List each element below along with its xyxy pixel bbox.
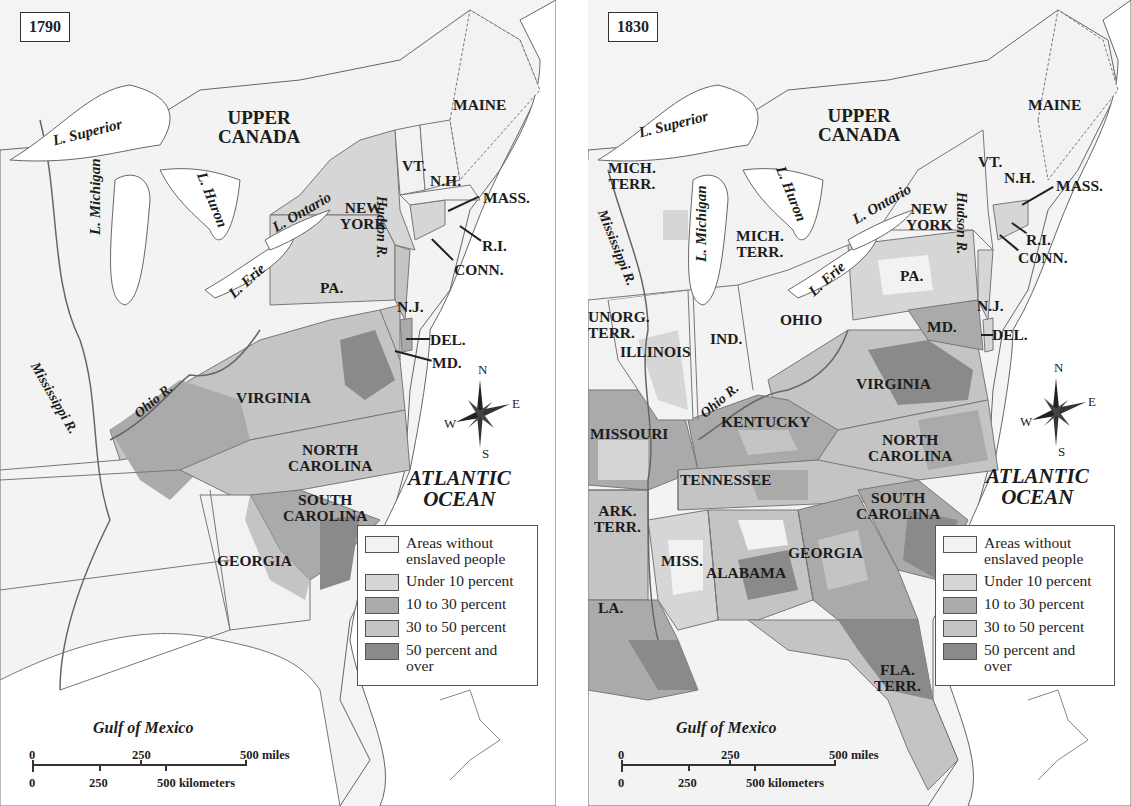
region-delaware [400,318,412,352]
legend-label: 30 to 50 percent [406,619,506,635]
label-south-carolina: SOUTH CAROLINA [856,490,940,521]
label-fla-terr: FLA. TERR. [874,662,921,693]
label-text: FLA. [874,662,921,678]
label-illinois: ILLINOIS [620,344,691,360]
label-new-york: NEW YORK [906,201,953,232]
legend-swatch [943,536,977,553]
label-lake-michigan: L. Michigan [88,158,103,235]
label-text: MICH. [736,228,784,244]
label-lake-michigan: L. Michigan [694,185,709,262]
scale-tick [245,760,247,766]
legend-label-line: enslaved people [984,550,1083,567]
label-text: OCEAN [408,489,511,510]
legend-swatch [943,643,977,660]
legend: Areas withoutenslaved people Under 10 pe… [357,525,538,686]
legend-item-under-10: Under 10 percent [365,573,529,591]
label-del: DEL. [430,332,466,348]
label-text: CAROLINA [288,458,372,474]
scale-tick [754,765,756,771]
label-mass: MASS. [483,190,530,206]
scale-miles-500: 500 miles [240,748,290,763]
label-gulf-of-mexico: Gulf of Mexico [676,720,776,736]
map-1790: 1790 UPPER CANADA MAINE VT. N.H. MASS. R… [0,0,556,806]
scale-tick [32,760,34,772]
label-mich-terr-west: MICH. TERR. [608,160,656,191]
label-text: NORTH [868,432,952,448]
leader-del [406,338,430,340]
legend-label-line: Areas without [984,534,1071,551]
scale-tick [729,760,731,766]
label-text: UPPER [818,106,900,125]
legend-label-line: enslaved people [406,550,505,567]
legend-swatch [365,597,399,614]
scale-km-0: 0 [29,776,35,791]
compass-e: E [512,396,520,412]
label-south-carolina: SOUTH CAROLINA [283,492,367,523]
label-ohio: OHIO [780,312,822,328]
label-md: MD. [927,319,957,335]
label-text: CAROLINA [856,506,940,522]
label-text: TERR. [608,176,656,192]
scale-bar: 0 250 500 miles 0 250 500 kilometers [32,748,292,793]
legend-item-under-10: Under 10 percent [943,573,1106,591]
label-virginia: VIRGINIA [856,376,931,392]
scale-bar: 0 250 500 miles 0 250 500 kilometers [621,748,881,793]
legend-label: 50 percent andover [406,642,497,675]
label-text: CAROLINA [283,508,367,524]
label-text: UNORG. [588,309,650,325]
legend-label-line: Areas without [406,534,493,551]
legend-swatch [365,574,399,591]
label-del: DEL. [992,327,1028,343]
scale-km-250: 250 [678,776,697,791]
legend-item-50-plus: 50 percent andover [365,642,529,675]
year-label: 1830 [608,12,658,42]
legend-label-line: 50 percent and [984,641,1075,658]
legend-item-none: Areas withoutenslaved people [943,535,1106,568]
legend-item-30-to-50: 30 to 50 percent [365,619,529,637]
label-text: TERR. [874,678,921,694]
label-md: MD. [432,355,462,371]
label-text: CANADA [818,125,900,144]
label-nj: N.J. [977,298,1004,314]
label-tennessee: TENNESSEE [680,472,771,488]
label-north-carolina: NORTH CAROLINA [868,432,952,463]
region-missouri-low [598,440,648,480]
label-text: TERR. [594,519,641,535]
label-maine: MAINE [1028,97,1081,113]
scale-km-0: 0 [618,776,624,791]
label-nj: N.J. [397,299,424,315]
legend-item-10-to-30: 10 to 30 percent [365,596,529,614]
legend-item-none: Areas withoutenslaved people [365,535,529,568]
label-ri: R.I. [1026,232,1051,248]
legend-label: Under 10 percent [984,573,1092,589]
label-text: CAROLINA [868,448,952,464]
legend-swatch [365,536,399,553]
legend-label: 30 to 50 percent [984,619,1084,635]
label-hudson-river: Hudson R. [374,196,388,258]
label-alabama: ALABAMA [706,565,786,581]
label-mass: MASS. [1056,178,1103,194]
label-ark-terr: ARK. TERR. [594,503,641,534]
legend-swatch [943,574,977,591]
scale-tick [834,760,836,766]
label-upper-canada: UPPER CANADA [818,106,900,144]
legend-swatch [943,620,977,637]
label-text: NORTH [288,442,372,458]
legend-item-30-to-50: 30 to 50 percent [943,619,1106,637]
legend-label: Areas withoutenslaved people [984,535,1083,568]
label-pa: PA. [320,280,343,296]
label-text: TERR. [736,244,784,260]
scale-km-250: 250 [89,776,108,791]
compass-rose: N E S W [452,372,522,452]
legend-swatch [365,643,399,660]
label-text: ATLANTIC [408,468,511,489]
label-louisiana: LA. [598,600,623,616]
scale-tick [140,760,142,766]
legend-item-50-plus: 50 percent andover [943,642,1106,675]
label-text: SOUTH [856,490,940,506]
legend-label: Areas withoutenslaved people [406,535,505,568]
label-upper-canada: UPPER CANADA [218,108,300,146]
label-hudson-river: Hudson R. [954,192,968,254]
compass-rose: N E S W [1028,370,1098,450]
label-maine: MAINE [453,97,506,113]
